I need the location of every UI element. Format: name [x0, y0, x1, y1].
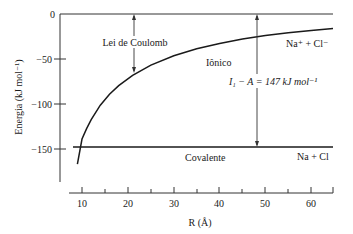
arrow-down-icon [132, 67, 136, 73]
y-axis-label: Energia (kJ mol⁻¹) [13, 59, 25, 134]
covalent-label: Covalente [185, 152, 226, 163]
x-tick-label-30: 30 [169, 198, 179, 209]
y-tick-label-50: −50 [36, 54, 52, 65]
y-tick-label-150: −150 [31, 144, 52, 155]
x-tick-label-50: 50 [260, 198, 270, 209]
x-tick-label-60: 60 [306, 198, 316, 209]
arrow-down-icon [255, 141, 259, 147]
y-tick-label-100: −100 [31, 99, 52, 110]
x-tick-label-40: 40 [214, 198, 224, 209]
ionic-limit-label: Na⁺ + Cl⁻ [286, 38, 328, 49]
x-axis-label: R (Å) [188, 217, 211, 229]
x-ticks [82, 187, 333, 193]
y-tick-label-0: 0 [50, 9, 55, 20]
energy-chart: 0 −50 −100 −150 Energia (kJ mol⁻¹) Lei d… [0, 0, 353, 234]
arrow-up-icon [132, 14, 136, 20]
covalent-limit-label: Na + Cl [297, 151, 329, 162]
x-tick-label-10: 10 [77, 198, 87, 209]
x-tick-label-20: 20 [123, 198, 133, 209]
ionic-label: Iônico [206, 57, 232, 68]
arrow-up-icon [255, 14, 259, 20]
coulomb-label: Lei de Coulomb [103, 37, 168, 48]
gap-label: I₁ − A = 147 kJ mol⁻¹ [228, 76, 317, 87]
